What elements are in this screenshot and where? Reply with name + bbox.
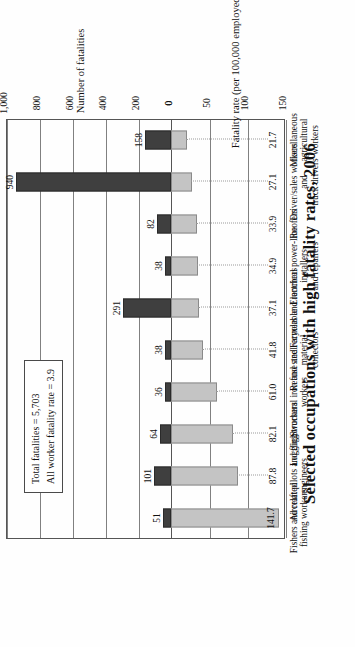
bar-fatality-count[interactable]: 158 xyxy=(145,131,171,150)
bar-fatality-rate[interactable]: 37.1 xyxy=(171,299,199,318)
bar-fatality-rate[interactable]: 27.1 xyxy=(171,173,192,192)
bar-value-rate: 34.9 xyxy=(268,258,278,275)
bar-group: 94027.1 xyxy=(6,161,285,203)
tick-count-600: 600 xyxy=(65,96,75,110)
bar-fatality-rate[interactable]: 34.9 xyxy=(171,257,198,276)
label-leader-line xyxy=(237,475,268,476)
tick-count-400: 400 xyxy=(98,96,108,110)
bar-value-rate: 33.9 xyxy=(268,216,278,233)
category-labels: Fishers and related fishing workersAircr… xyxy=(289,119,347,539)
bar-fatality-count[interactable]: 291 xyxy=(123,299,171,318)
bar-value-count: 101 xyxy=(143,469,153,483)
bar-value-count: 158 xyxy=(134,133,144,147)
tick-count-200: 200 xyxy=(131,96,141,110)
axis-label-number-of-fatalities: Number of fatalities xyxy=(75,29,86,114)
bar-fatality-rate[interactable]: 21.7 xyxy=(171,131,187,150)
bar-value-rate: 21.7 xyxy=(268,132,278,149)
label-leader-line xyxy=(186,139,268,140)
label-leader-line xyxy=(196,223,268,224)
tick-rate-0: 0 xyxy=(164,101,174,106)
bar-group: 8233.9 xyxy=(6,203,285,245)
bar-fatality-rate[interactable]: 82.1 xyxy=(171,425,233,444)
bar-value-count: 36 xyxy=(154,387,164,397)
label-leader-line xyxy=(232,433,268,434)
bar-group: 3834.9 xyxy=(6,245,285,287)
tick-count-1000: 1,000 xyxy=(0,92,9,113)
label-leader-line xyxy=(191,181,268,182)
bar-fatality-count[interactable]: 940 xyxy=(16,173,171,192)
bar-group: 51141.7 xyxy=(6,497,285,539)
bar-fatality-rate[interactable]: 87.8 xyxy=(171,467,238,486)
bar-value-count: 51 xyxy=(152,513,162,523)
bar-fatality-rate[interactable]: 141.7 xyxy=(171,509,279,528)
tick-rate-100: 100 xyxy=(240,96,250,110)
bar-value-rate: 82.1 xyxy=(268,426,278,443)
rotated-figure-container: Selected occupations with high fatality … xyxy=(0,0,355,647)
label-leader-line xyxy=(197,265,268,266)
bar-value-count: 291 xyxy=(112,301,122,315)
bar-group: 15821.7 xyxy=(6,119,285,161)
bar-fatality-count[interactable]: 51 xyxy=(163,509,171,528)
annotation-all-worker-rate: All worker fatality rate = 3.9 xyxy=(44,369,59,484)
bar-fatality-count[interactable]: 64 xyxy=(160,425,171,444)
bar-value-rate: 41.8 xyxy=(268,342,278,359)
chart-figure: Selected occupations with high fatality … xyxy=(0,0,355,647)
bar-value-count: 940 xyxy=(5,175,15,189)
bar-fatality-count[interactable]: 101 xyxy=(154,467,171,486)
bar-fatality-rate[interactable]: 61.0 xyxy=(171,383,217,402)
bar-fatality-rate[interactable]: 33.9 xyxy=(171,215,197,234)
gridline-rate-150 xyxy=(286,120,287,538)
bar-value-rate: 61.0 xyxy=(268,384,278,401)
annotation-total-fatalities: Total fatalities = 5,703 xyxy=(29,369,44,484)
label-leader-line xyxy=(198,307,268,308)
bar-value-count: 82 xyxy=(146,219,156,229)
tick-rate-50: 50 xyxy=(202,98,212,108)
label-leader-line xyxy=(216,391,268,392)
bar-value-count: 38 xyxy=(154,345,164,355)
bar-value-count: 64 xyxy=(149,429,159,439)
bar-fatality-count[interactable]: 82 xyxy=(157,215,171,234)
bar-value-rate: 37.1 xyxy=(268,300,278,317)
label-leader-line xyxy=(202,349,268,350)
bar-value-rate: 141.7 xyxy=(266,507,276,528)
bar-value-rate: 27.1 xyxy=(268,174,278,191)
tick-rate-150: 150 xyxy=(278,96,288,110)
bar-group: 29137.1 xyxy=(6,287,285,329)
tick-count-800: 800 xyxy=(32,96,42,110)
annotation-box: Total fatalities = 5,703 All worker fata… xyxy=(24,360,63,493)
bar-fatality-rate[interactable]: 41.8 xyxy=(171,341,203,360)
bar-value-count: 38 xyxy=(154,261,164,271)
bar-value-rate: 87.8 xyxy=(268,468,278,485)
category-label: Miscellaneous agricultural workers xyxy=(289,94,320,186)
